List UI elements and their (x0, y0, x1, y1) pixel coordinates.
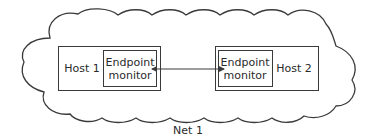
host-2-endpoint-monitor-label: Endpoint monitor (218, 56, 272, 82)
host-1-endpoint-monitor-line2: monitor (103, 69, 157, 82)
network-label: Net 1 (168, 124, 208, 137)
host-2-label: Host 2 (273, 62, 315, 75)
host-2-endpoint-monitor-line2: monitor (218, 69, 272, 82)
host-1-label: Host 1 (62, 62, 102, 75)
network-diagram (0, 0, 372, 140)
host-1-endpoint-monitor-label: Endpoint monitor (103, 56, 157, 82)
host-2-endpoint-monitor-line1: Endpoint (218, 56, 272, 69)
host-1-endpoint-monitor-line1: Endpoint (103, 56, 157, 69)
